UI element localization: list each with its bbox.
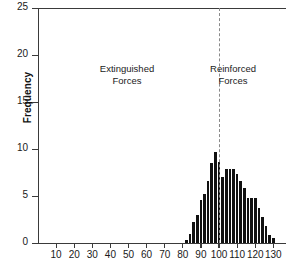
y-tick-label: 0 <box>0 236 28 247</box>
x-tick-mark <box>164 243 165 248</box>
histogram-bar <box>189 234 192 243</box>
y-tick-label: 25 <box>0 1 28 12</box>
x-tick-mark <box>74 243 75 248</box>
y-tick-label: 5 <box>0 189 28 200</box>
y-tick-label: 20 <box>0 48 28 59</box>
histogram-bar <box>247 198 250 243</box>
histogram-bar <box>196 215 199 243</box>
x-tick-mark <box>218 243 219 248</box>
histogram-bar <box>258 208 261 243</box>
histogram-bar <box>229 169 232 243</box>
histogram-bar <box>250 198 253 243</box>
histogram-bar <box>268 235 271 243</box>
annotation-reinforced-line1: Reinforced <box>210 63 256 74</box>
histogram-bar <box>265 226 268 243</box>
histogram-bar <box>185 240 188 243</box>
annotation-reinforced-forces: Reinforced Forces <box>190 63 276 87</box>
annotation-reinforced-line2: Forces <box>190 75 276 87</box>
histogram-bar <box>203 194 206 243</box>
annotation-extinguished-line2: Forces <box>84 75 170 87</box>
annotation-extinguished-line1: Extinguished <box>100 63 154 74</box>
x-tick-mark <box>56 243 57 248</box>
x-tick-mark <box>273 243 274 248</box>
histogram-bar <box>210 163 213 243</box>
histogram-bar <box>254 198 257 243</box>
histogram-bars <box>38 8 286 243</box>
histogram-bar <box>207 181 210 243</box>
x-tick-label: 130 <box>259 249 287 260</box>
x-tick-mark <box>146 243 147 248</box>
histogram-bar <box>225 169 228 243</box>
x-tick-mark <box>255 243 256 248</box>
x-axis-line <box>38 243 286 244</box>
histogram-bar <box>200 200 203 243</box>
x-tick-mark <box>92 243 93 248</box>
histogram-bar <box>243 188 246 243</box>
histogram-figure: Frequency 0510152025 1020304050607080901… <box>0 0 291 267</box>
histogram-bar <box>239 181 242 243</box>
histogram-bar <box>214 152 217 243</box>
x-tick-mark <box>237 243 238 248</box>
x-tick-mark <box>128 243 129 248</box>
y-tick-label: 15 <box>0 95 28 106</box>
x-tick-mark <box>110 243 111 248</box>
histogram-bar <box>261 217 264 243</box>
reference-line-100 <box>219 8 220 243</box>
x-tick-mark <box>200 243 201 248</box>
histogram-bar <box>221 177 224 243</box>
histogram-bar <box>232 169 235 243</box>
histogram-bar <box>192 222 195 243</box>
y-tick-label: 10 <box>0 142 28 153</box>
annotation-extinguished-forces: Extinguished Forces <box>84 63 170 87</box>
histogram-bar <box>272 238 275 243</box>
x-tick-mark <box>182 243 183 248</box>
histogram-bar <box>236 174 239 243</box>
